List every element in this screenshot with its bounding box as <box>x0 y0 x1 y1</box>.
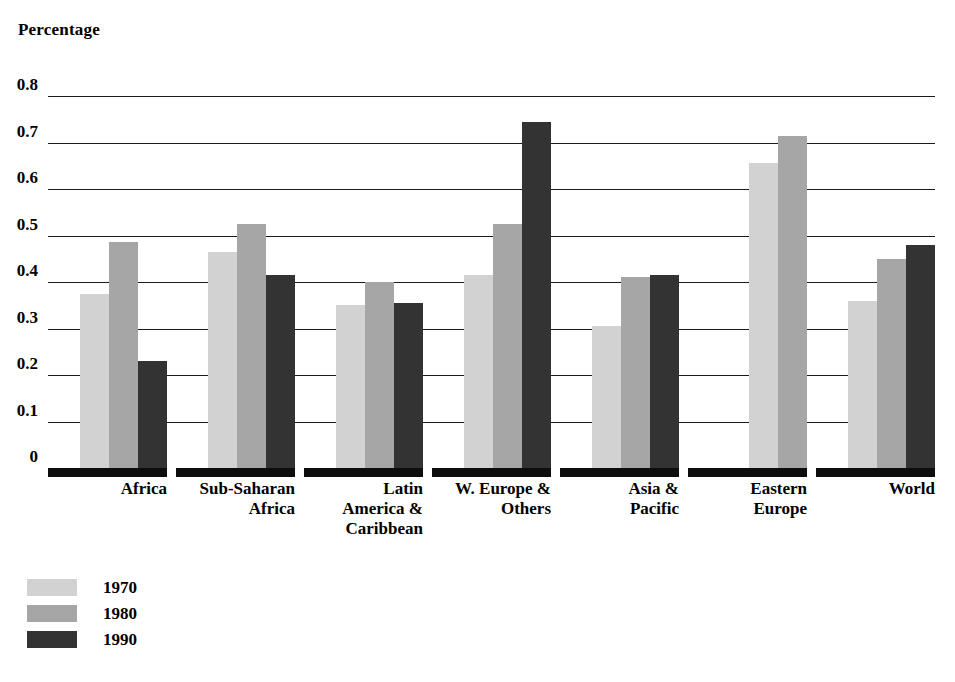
bar-group: Asia & Pacific <box>560 96 679 468</box>
bar-1970 <box>592 326 621 468</box>
y-axis-tick-label: 0.5 <box>17 215 38 232</box>
chart-legend: 1970 1980 1990 <box>27 574 137 652</box>
bar-1980 <box>778 136 807 468</box>
bar-1980 <box>365 282 394 468</box>
x-axis-category-label: Africa <box>121 479 167 499</box>
group-baseline <box>816 468 935 477</box>
bar-group: Sub-Saharan Africa <box>176 96 295 468</box>
bar-1990 <box>138 361 167 468</box>
y-axis-tick-label: 0.4 <box>17 262 38 279</box>
y-axis-tick-label: 0.1 <box>17 401 38 418</box>
bar-group-bars <box>464 96 551 468</box>
bar-1990 <box>394 303 423 468</box>
group-baseline <box>176 468 295 477</box>
legend-swatch-1980 <box>27 605 77 622</box>
legend-swatch-1990 <box>27 631 77 648</box>
y-axis-tick-label: 0.2 <box>17 355 38 372</box>
bar-group-bars <box>336 96 423 468</box>
bar-1970 <box>749 163 778 468</box>
bar-group-bars <box>592 96 679 468</box>
bar-1990 <box>522 122 551 468</box>
x-axis-category-label: W. Europe & Others <box>455 479 551 519</box>
y-axis-tick-label: 0 <box>30 448 39 465</box>
bar-group-bars <box>848 96 935 468</box>
bar-1970 <box>464 275 493 468</box>
legend-item-1970: 1970 <box>27 574 137 600</box>
x-axis-category-label: Sub-Saharan Africa <box>200 479 295 519</box>
bar-group: Africa <box>48 96 167 468</box>
legend-item-1990: 1990 <box>27 626 137 652</box>
bar-1970 <box>80 294 109 468</box>
bar-group-bars <box>80 96 167 468</box>
group-baseline <box>432 468 551 477</box>
x-axis-category-label: Asia & Pacific <box>628 479 679 519</box>
legend-label-1990: 1990 <box>103 631 137 648</box>
bar-1990 <box>266 275 295 468</box>
y-axis-tick-label: 0.7 <box>17 122 38 139</box>
group-baseline <box>688 468 807 477</box>
bar-1980 <box>237 224 266 468</box>
bar-group: Latin America & Caribbean <box>304 96 423 468</box>
y-axis-tick-label: 0.6 <box>17 169 38 186</box>
bar-1970 <box>336 305 365 468</box>
bar-group: World <box>816 96 935 468</box>
x-axis-category-label: World <box>889 479 935 499</box>
x-axis-category-label: Eastern Europe <box>750 479 807 519</box>
bar-1970 <box>848 301 877 468</box>
bar-1980 <box>493 224 522 468</box>
bar-1980 <box>109 242 138 468</box>
legend-swatch-1970 <box>27 579 77 596</box>
bar-group-bars <box>749 96 807 468</box>
bar-1990 <box>650 275 679 468</box>
bar-1970 <box>208 252 237 468</box>
bar-1980 <box>877 259 906 468</box>
bar-group-bars <box>208 96 295 468</box>
group-baseline <box>48 468 167 477</box>
legend-item-1980: 1980 <box>27 600 137 626</box>
legend-label-1980: 1980 <box>103 605 137 622</box>
y-axis-title: Percentage <box>18 20 100 40</box>
bar-group: Eastern Europe <box>688 96 807 468</box>
group-baseline <box>560 468 679 477</box>
bar-1990 <box>906 245 935 468</box>
bar-group: W. Europe & Others <box>432 96 551 468</box>
legend-label-1970: 1970 <box>103 579 137 596</box>
y-axis-tick-label: 0.8 <box>17 76 38 93</box>
x-axis-category-label: Latin America & Caribbean <box>342 479 423 539</box>
bar-1980 <box>621 277 650 468</box>
group-baseline <box>304 468 423 477</box>
plot-area: 00.10.20.30.40.50.60.70.8AfricaSub-Sahar… <box>48 96 935 468</box>
y-axis-tick-label: 0.3 <box>17 308 38 325</box>
bar-chart: Percentage 00.10.20.30.40.50.60.70.8Afri… <box>0 0 955 682</box>
